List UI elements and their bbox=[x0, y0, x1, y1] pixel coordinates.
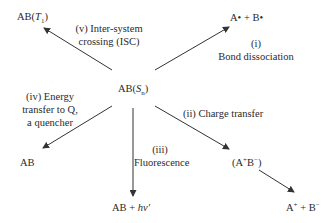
fluorescence-prefix: AB + bbox=[112, 202, 138, 213]
ions-mid: + B bbox=[298, 202, 316, 213]
process-charge-transfer-label: (ii) Charge transfer bbox=[183, 107, 263, 120]
triplet-suffix: ) bbox=[44, 11, 48, 22]
process-bond-dissociation-label: (i) Bond dissociation bbox=[214, 37, 298, 63]
center-prefix: AB( bbox=[118, 83, 136, 94]
ions-a: A bbox=[286, 202, 294, 213]
triplet-prefix: AB( bbox=[17, 11, 35, 22]
fluorescence-product: AB + hν′ bbox=[112, 201, 150, 214]
center-suffix: ) bbox=[145, 83, 149, 94]
energy-transfer-line2: transfer to Q, bbox=[18, 103, 82, 116]
fluorescence-line1: (iii) bbox=[134, 143, 186, 156]
ion-pair-mid: B bbox=[247, 157, 254, 168]
ion-pair-product: (A+B−) bbox=[232, 156, 262, 169]
isc-line2: crossing (ISC) bbox=[70, 35, 148, 48]
ion-pair-close: ) bbox=[258, 157, 262, 168]
separated-ions-product: A+ + B− bbox=[286, 201, 320, 214]
bond-dissociation-line2: Bond dissociation bbox=[214, 50, 298, 63]
energy-transfer-line3: a quencher bbox=[18, 116, 82, 129]
excited-singlet-state: AB(Sn) bbox=[118, 82, 148, 95]
process-isc-label: (v) Inter-system crossing (ISC) bbox=[70, 22, 148, 48]
process-energy-transfer-label: (iv) Energy transfer to Q, a quencher bbox=[18, 90, 82, 129]
fluorescence-line2: Fluorescence bbox=[134, 156, 186, 169]
triplet-state-product: AB(T1) bbox=[17, 10, 48, 23]
energy-transfer-line1: (iv) Energy bbox=[18, 90, 82, 103]
radicals-product: A• + B• bbox=[230, 11, 263, 24]
ion-pair-open: (A bbox=[232, 157, 243, 168]
arrow-ion-separation bbox=[259, 170, 294, 192]
ions-minus: − bbox=[316, 201, 320, 209]
bond-dissociation-line1: (i) bbox=[214, 37, 298, 50]
photon-symbol: hν′ bbox=[138, 202, 150, 213]
isc-line1: (v) Inter-system bbox=[70, 22, 148, 35]
process-fluorescence-label: (iii) Fluorescence bbox=[134, 143, 186, 169]
ground-state-product: AB bbox=[20, 156, 35, 169]
